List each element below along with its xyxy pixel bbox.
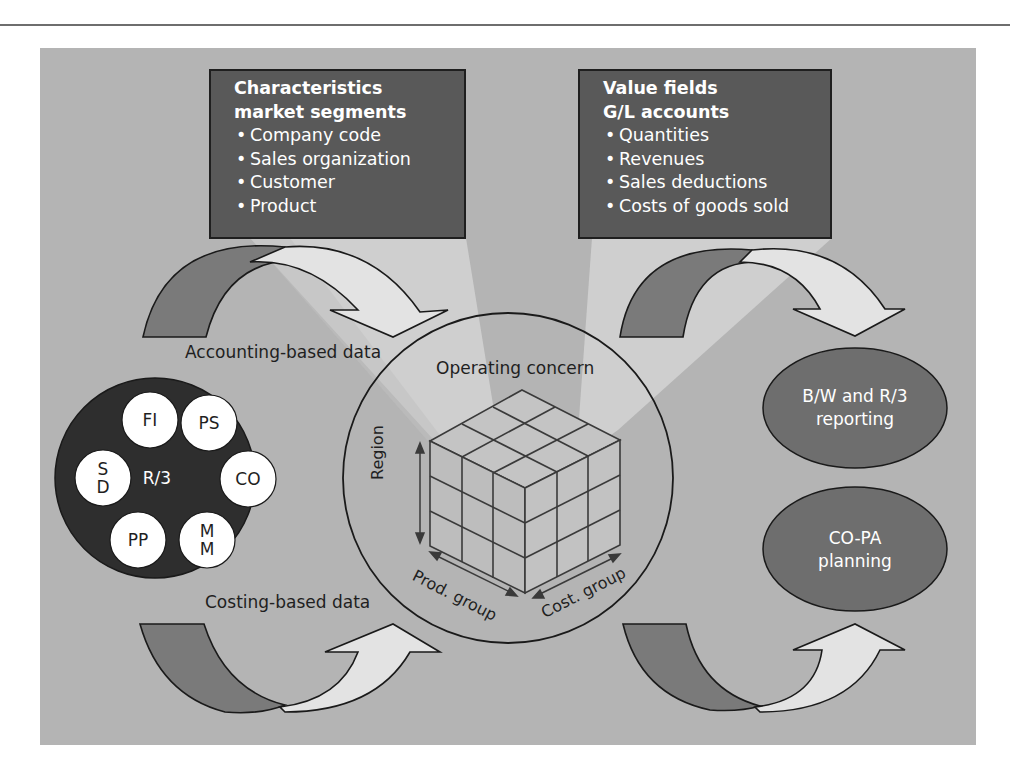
value-fields-item: Revenues [603,148,830,172]
module-label-sd: S D [75,460,131,496]
characteristics-title-line1: Characteristics [234,77,464,101]
module-label-mm-line1: M [179,522,235,540]
characteristics-item: Customer [234,171,464,195]
reporting-label-line1: B/W and R/3 [775,385,935,408]
value-fields-list: Quantities Revenues Sales deductions Cos… [603,124,830,218]
value-fields-item: Quantities [603,124,830,148]
characteristics-box: Characteristics market segments Company … [209,69,466,239]
characteristics-list: Company code Sales organization Customer… [234,124,464,218]
characteristics-title-line2: market segments [234,101,464,125]
module-label-ps: PS [181,414,237,432]
costing-arrow-light [280,624,440,712]
planning-arrow-dark [623,624,760,711]
reporting-label-line2: reporting [775,408,935,431]
planning-label: CO-PA planning [775,527,935,573]
planning-label-line2: planning [775,550,935,573]
value-fields-title-line1: Value fields [603,77,830,101]
value-fields-item: Sales deductions [603,171,830,195]
characteristics-item: Company code [234,124,464,148]
characteristics-item: Sales organization [234,148,464,172]
planning-arrow-light [755,624,905,712]
reporting-label: B/W and R/3 reporting [775,385,935,431]
costing-based-data-label: Costing-based data [205,592,370,612]
accounting-based-data-label: Accounting-based data [185,342,381,362]
module-label-mm-line2: M [179,540,235,558]
costing-flow-arrow [140,624,440,713]
module-label-co: CO [220,470,276,488]
r3-center-label: R/3 [135,467,179,490]
operating-concern-title: Operating concern [436,358,594,378]
costing-arrow-dark [140,624,285,713]
value-fields-item: Costs of goods sold [603,195,830,219]
region-axis-label: Region [368,425,387,480]
characteristics-item: Product [234,195,464,219]
value-fields-title-line2: G/L accounts [603,101,830,125]
diagram-canvas [0,0,1010,765]
region-axis-arrow [416,443,424,543]
value-fields-box: Value fields G/L accounts Quantities Rev… [578,69,832,239]
module-label-fi: FI [122,411,178,429]
module-label-pp: PP [110,531,166,549]
module-label-sd-line2: D [75,478,131,496]
planning-flow-arrow [623,624,905,712]
module-label-sd-line1: S [75,460,131,478]
module-label-mm: M M [179,522,235,558]
planning-label-line1: CO-PA [775,527,935,550]
